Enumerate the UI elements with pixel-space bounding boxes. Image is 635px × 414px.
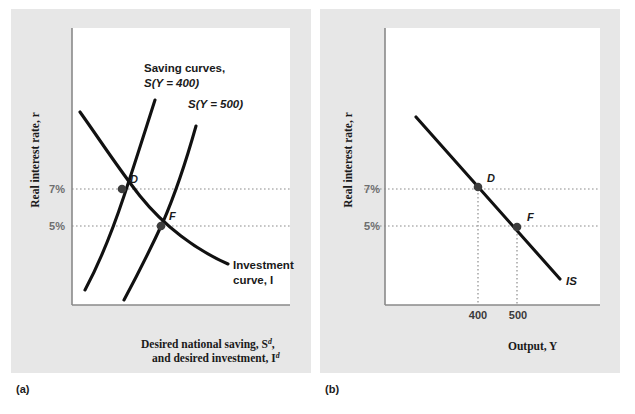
panel-b-chart: 7% 5% 400 500 D F IS Real interest rate,…	[0, 0, 635, 414]
panel-b-x-axis-title: Output, Y	[508, 340, 558, 353]
panel-b-plot-area	[385, 28, 600, 305]
panel-b-xtick-500: 500	[509, 309, 527, 321]
panel-b-xtick-400: 400	[469, 309, 487, 321]
panel-b-label-d: D	[487, 172, 495, 184]
panel-b-caption: (b)	[325, 383, 339, 395]
panel-b-y-axis-title: Real interest rate, r	[342, 112, 354, 208]
panel-b-point-f	[513, 223, 522, 232]
panel-a-caption: (a)	[16, 383, 29, 395]
panel-b-ytick-5: 5%	[364, 220, 380, 232]
panel-b-is-label: IS	[566, 275, 577, 287]
panel-b-ytick-7: 7%	[364, 183, 380, 195]
panel-b-point-d	[474, 183, 483, 192]
figure-container: 7% 5% D F Saving curves, S(Y = 400) S(Y …	[0, 0, 635, 414]
panel-b-label-f: F	[527, 211, 534, 223]
